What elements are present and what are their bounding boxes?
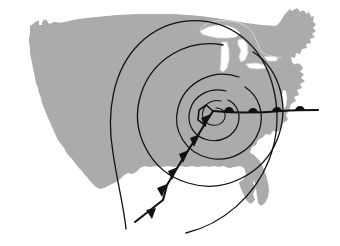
weather-map-figure: Mid-latitude cyclone over the contiguous… [0, 0, 340, 246]
weather-map-canvas: Mid-latitude cyclone over the contiguous… [0, 0, 340, 246]
puget-sound-notch [39, 20, 42, 25]
